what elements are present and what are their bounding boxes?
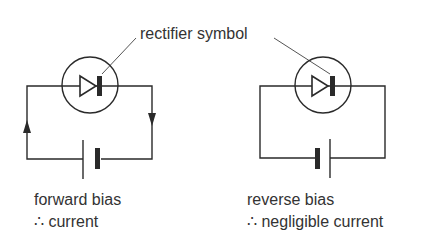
reverse-bias-result: ∴ negligible current <box>247 213 384 230</box>
diode-bar-icon <box>97 76 102 96</box>
wire-right <box>101 86 152 159</box>
wire-left <box>260 86 315 158</box>
reverse-bias-circuit: reverse bias ∴ negligible current <box>247 57 385 230</box>
rectifier-symbol-label: rectifier symbol <box>140 25 248 42</box>
forward-bias-caption: forward bias <box>34 191 121 208</box>
wire-right <box>330 86 385 158</box>
diode-bar-icon <box>330 76 335 96</box>
diode-triangle-icon <box>312 76 328 96</box>
battery-thick-plate <box>95 148 100 169</box>
battery-thick-plate <box>315 148 320 169</box>
leader-line-left <box>102 38 136 74</box>
forward-bias-result: ∴ current <box>34 213 99 230</box>
diagram-canvas: rectifier symbol forward bias ∴ current <box>0 0 421 245</box>
diode-triangle-icon <box>80 76 96 96</box>
leader-line-right <box>274 38 330 74</box>
forward-bias-circuit: forward bias ∴ current <box>23 57 156 230</box>
current-arrow-down-icon <box>148 113 156 126</box>
wire-left <box>27 86 83 159</box>
reverse-bias-caption: reverse bias <box>247 191 334 208</box>
current-arrow-up-icon <box>23 120 31 133</box>
